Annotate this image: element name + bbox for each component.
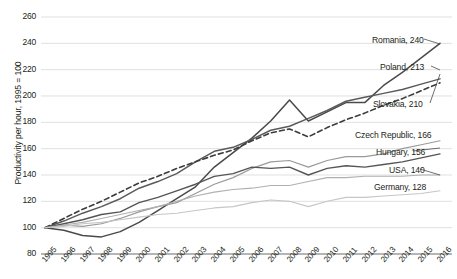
series-end-label: USA, 140 xyxy=(389,165,425,175)
y-axis-tick-label: 80 xyxy=(10,248,36,258)
y-axis-tick-label: 180 xyxy=(10,116,36,126)
series-end-label: Poland, 213 xyxy=(380,62,424,72)
y-axis-tick-label: 120 xyxy=(10,195,36,205)
y-axis-tick-label: 200 xyxy=(10,90,36,100)
y-axis-tick-label: 140 xyxy=(10,169,36,179)
series-end-label: Slovakia, 210 xyxy=(373,99,423,109)
series-lines xyxy=(45,43,440,237)
productivity-line-chart: Productivity per hour, 1995 = 100 801001… xyxy=(0,0,457,279)
series-line-romania xyxy=(45,43,440,237)
series-end-label: Hungary, 156 xyxy=(376,147,425,157)
series-end-label: Romania, 240 xyxy=(372,35,424,45)
leader-line xyxy=(430,74,440,103)
series-end-label: Germany, 128 xyxy=(374,182,426,192)
y-axis-tick-label: 160 xyxy=(10,143,36,153)
y-axis-tick-label: 240 xyxy=(10,37,36,47)
series-line-germany xyxy=(45,191,440,228)
series-end-label: Czech Republic, 166 xyxy=(355,130,431,140)
y-axis-tick-label: 220 xyxy=(10,64,36,74)
y-axis-tick-label: 260 xyxy=(10,11,36,21)
y-axis-tick-label: 100 xyxy=(10,222,36,232)
